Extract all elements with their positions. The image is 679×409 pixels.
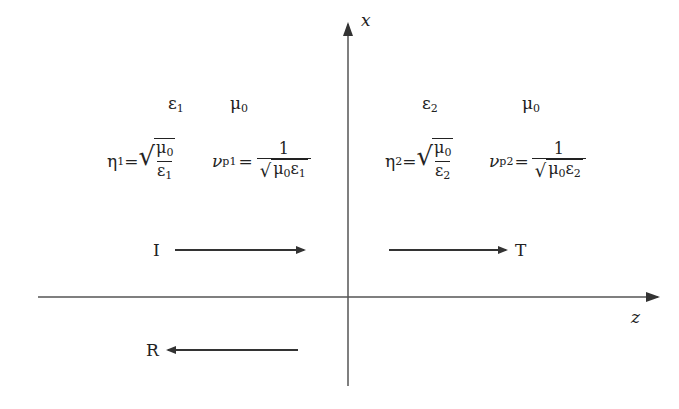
sqrt-symbol: √ μ0ε1 [260,159,308,182]
diagram-canvas [0,0,679,409]
region2-impedance-equation: η2 = √ μ0 ε2 [385,138,453,184]
sqrt-symbol: √ μ0 ε2 [416,138,453,184]
incident-wave-label: I [153,242,160,259]
region1-impedance-equation: η1 = √ μ0 ε1 [107,138,175,184]
region2-permeability: μ0 [522,95,540,114]
region1-permeability: μ0 [230,95,248,114]
sqrt-symbol: √ μ0ε2 [535,159,583,182]
sqrt-symbol: √ μ0 ε1 [138,138,175,184]
transmitted-wave-label: T [515,242,526,259]
region1-permittivity: ε1 [168,95,184,114]
z-axis-label: z [631,309,640,326]
region2-permittivity: ε2 [422,95,438,114]
reflected-wave-label: R [146,342,159,359]
x-axis-label: x [361,12,371,29]
region1-phase-velocity-equation: νp1 = 1 √ μ0ε1 [212,140,311,182]
region2-phase-velocity-equation: νp2 = 1 √ μ0ε2 [489,140,586,182]
